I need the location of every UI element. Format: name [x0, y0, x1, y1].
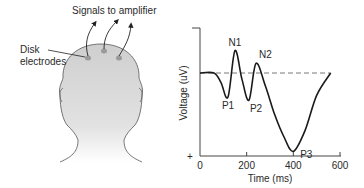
y-axis-plus-sign: +	[187, 151, 193, 162]
x-tick-label: 400	[285, 160, 302, 171]
peak-label-p2: P2	[250, 103, 263, 114]
peak-label-p3: P3	[300, 149, 313, 160]
evoked-potential-chart: + 0200400600 P1N1P2N2P3 Time (ms) Voltag…	[0, 0, 364, 188]
peak-label-p1: P1	[222, 100, 235, 111]
y-axis-label: Voltage (uV)	[178, 65, 189, 120]
x-tick-label: 600	[332, 160, 349, 171]
peak-label-n1: N1	[229, 37, 242, 48]
x-tick-label: 200	[238, 160, 255, 171]
x-axis-label: Time (ms)	[248, 173, 293, 184]
evoked-potential-curve	[200, 50, 331, 151]
peak-label-n2: N2	[259, 49, 272, 60]
x-tick-label: 0	[197, 160, 203, 171]
